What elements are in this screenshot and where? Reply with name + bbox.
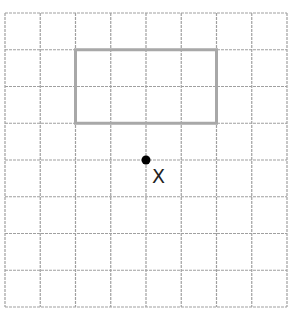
grid-diagram [0,0,296,324]
point-x-label: X [152,167,165,186]
point-x-dot [142,156,151,165]
